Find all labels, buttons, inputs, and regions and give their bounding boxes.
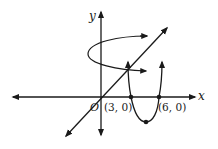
vertex-point (144, 120, 149, 125)
origin-label: O (90, 101, 99, 114)
point-label-3-0: (3, 0) (104, 101, 132, 113)
point-3-0 (129, 95, 134, 100)
y-axis-label: y (88, 9, 96, 23)
x-axis-label: x (198, 89, 205, 103)
point-6-0 (157, 95, 162, 100)
graph-canvas: y x O (3, 0) (6, 0) (0, 0, 218, 149)
point-label-6-0: (6, 0) (158, 101, 186, 113)
rotation-arrow (88, 36, 147, 71)
